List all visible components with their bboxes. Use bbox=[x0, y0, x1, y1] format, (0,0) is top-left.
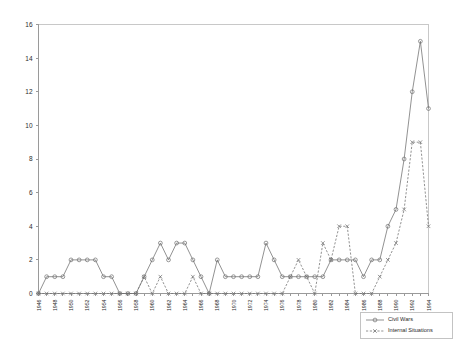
legend-label: Civil Wars bbox=[388, 316, 413, 322]
x-tick-label: 1952 bbox=[84, 299, 90, 311]
y-tick-label: 2 bbox=[29, 256, 33, 263]
x-tick-label: 1958 bbox=[133, 299, 139, 311]
x-tick-label: 1948 bbox=[52, 299, 58, 311]
x-tick-label: 1950 bbox=[68, 299, 74, 311]
x-tick-label: 1978 bbox=[296, 299, 302, 311]
series-line bbox=[39, 142, 429, 293]
x-tick-label: 1946 bbox=[36, 299, 42, 311]
x-axis: 1946194819501952195419561958196019621964… bbox=[36, 294, 432, 312]
x-tick-label: 1980 bbox=[312, 299, 318, 311]
x-tick-label: 1988 bbox=[377, 299, 383, 311]
y-tick-label: 14 bbox=[25, 55, 33, 62]
chart-container: 0246810121416 19461948195019521954195619… bbox=[0, 0, 461, 352]
x-tick-label: 1964 bbox=[182, 299, 188, 311]
data-series-group bbox=[37, 39, 431, 295]
y-tick-label: 0 bbox=[29, 290, 33, 297]
series-line bbox=[39, 41, 429, 293]
x-tick-label: 1966 bbox=[198, 299, 204, 311]
legend-label: Internal Situations bbox=[388, 327, 433, 333]
y-tick-label: 6 bbox=[29, 189, 33, 196]
y-tick-label: 4 bbox=[29, 223, 33, 230]
chart-legend: Civil WarsInternal Situations bbox=[361, 313, 453, 339]
x-tick-label: 1992 bbox=[409, 299, 415, 311]
plot-frame-group bbox=[39, 25, 429, 294]
x-tick-label: 1956 bbox=[117, 299, 123, 311]
x-tick-label: 1976 bbox=[279, 299, 285, 311]
x-tick-label: 1972 bbox=[247, 299, 253, 311]
series-internal-situations bbox=[37, 140, 431, 295]
x-tick-label: 1990 bbox=[393, 299, 399, 311]
plot-area-border bbox=[39, 25, 429, 294]
x-tick-label: 1974 bbox=[263, 299, 269, 311]
x-tick-label: 1984 bbox=[344, 299, 350, 311]
x-tick-label: 1960 bbox=[149, 299, 155, 311]
y-axis: 0246810121416 bbox=[25, 21, 38, 297]
x-tick-label: 1994 bbox=[426, 299, 432, 311]
y-tick-label: 16 bbox=[25, 21, 33, 28]
x-tick-label: 1970 bbox=[231, 299, 237, 311]
series-civil-wars bbox=[37, 39, 431, 295]
y-tick-label: 10 bbox=[25, 122, 33, 129]
y-tick-label: 12 bbox=[25, 88, 33, 95]
x-tick-label: 1982 bbox=[328, 299, 334, 311]
x-tick-label: 1986 bbox=[361, 299, 367, 311]
x-tick-label: 1968 bbox=[214, 299, 220, 311]
x-tick-label: 1954 bbox=[101, 299, 107, 311]
line-chart: 0246810121416 19461948195019521954195619… bbox=[0, 0, 461, 352]
x-tick-label: 1962 bbox=[166, 299, 172, 311]
y-tick-label: 8 bbox=[29, 155, 33, 162]
